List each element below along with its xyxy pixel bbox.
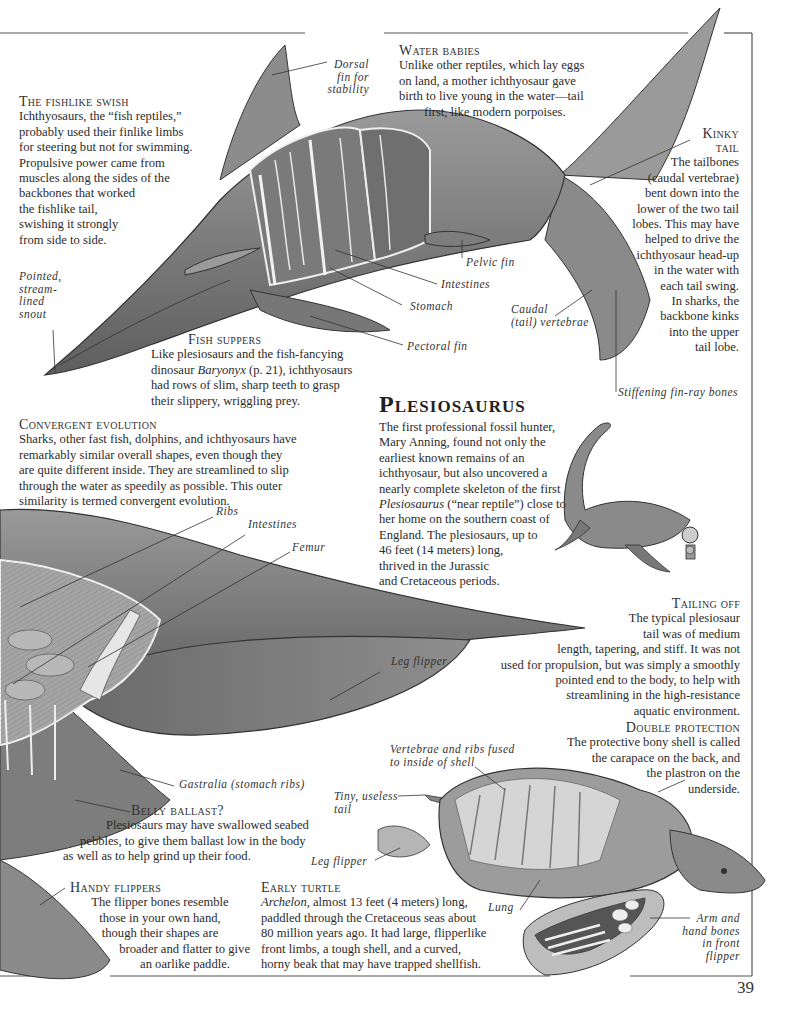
text-line: pointed end to the body, to help with xyxy=(490,673,740,688)
label-line: hand bones xyxy=(680,925,740,938)
label-pectoral-fin: Pectoral fin xyxy=(407,340,468,353)
label-line: stream- xyxy=(19,283,62,296)
label-caudal-vertebrae: Caudal (tail) vertebrae xyxy=(511,303,589,328)
text-line: remarkably similar overall shapes, even … xyxy=(19,448,329,463)
text-line: lobes. This may have xyxy=(600,217,739,232)
label-line: to inside of shell xyxy=(390,756,515,769)
text-line: bent down into the xyxy=(600,186,739,201)
text-line: (caudal vertebrae) xyxy=(600,171,739,186)
section-double-protection: Double protection The protective bony sh… xyxy=(540,720,740,797)
label-fin-ray-bones: Stiffening fin-ray bones xyxy=(618,386,738,399)
text-line: probably used their finlike limbs xyxy=(19,125,224,140)
label-leg-flipper-turtle: Leg flipper xyxy=(311,855,367,868)
page-number: 39 xyxy=(737,978,754,998)
label-leg-flipper: Leg flipper xyxy=(391,655,447,668)
label-tiny-tail: Tiny, useless tail xyxy=(334,790,398,815)
text-line: through the water as speedily as possibl… xyxy=(19,479,329,494)
text-line: The typical plesiosaur xyxy=(490,611,740,626)
text-line: tail was of medium xyxy=(490,627,740,642)
text-line: ichthyosaur, but also uncovered a xyxy=(379,466,579,481)
label-ribs: Ribs xyxy=(216,505,238,518)
text-line: and Cretaceous periods. xyxy=(379,574,579,589)
text-line: Ichthyosaurs, the “fish reptiles,” xyxy=(19,109,224,124)
label-line: Caudal xyxy=(511,303,589,316)
label-line: lined xyxy=(19,295,62,308)
section-heading: The fishlike swish xyxy=(19,94,224,109)
section-plesiosaurus-intro: The first professional fossil hunter, Ma… xyxy=(379,420,579,589)
text-line: The first professional fossil hunter, xyxy=(379,420,579,435)
label-femur: Femur xyxy=(292,541,325,554)
species-name: Plesiosaurus xyxy=(379,497,444,511)
text-line: the plastron on the xyxy=(540,766,740,781)
page-title: Plesiosaurus xyxy=(379,391,526,418)
label-line: flipper xyxy=(680,950,740,963)
label-line: Tiny, useless xyxy=(334,790,398,803)
text-line: In sharks, the xyxy=(600,294,739,309)
section-tailing-off: Tailing off The typical plesiosaur tail … xyxy=(490,596,740,719)
text-line: her home on the southern coast of xyxy=(379,512,579,527)
text-line: muscles along the sides of the xyxy=(19,171,224,186)
text-line: on land, a mother ichthyosaur gave xyxy=(399,74,629,89)
text-line: Plesiosaurs may have swallowed seabed xyxy=(63,818,325,833)
text-line: Unlike other reptiles, which lay eggs xyxy=(399,58,629,73)
text-span: (“near reptile”) close to xyxy=(444,497,566,511)
label-lung: Lung xyxy=(488,901,514,914)
label-line: (tail) vertebrae xyxy=(511,316,589,329)
section-heading: Fish suppers xyxy=(151,332,391,347)
species-name: Baryonyx xyxy=(198,363,246,377)
text-line: nearly complete skeleton of the first xyxy=(379,482,579,497)
label-intestines-plesio: Intestines xyxy=(248,518,297,531)
label-line: Arm and xyxy=(680,912,740,925)
text-span: , almost 13 feet (4 meters) long, xyxy=(307,895,468,909)
text-line: dinosaur Baryonyx (p. 21), ichthyosaurs xyxy=(151,363,391,378)
section-heading: Convergent evolution xyxy=(19,417,329,432)
text-line: the fishlike tail, xyxy=(19,202,224,217)
text-line: earliest known remains of an xyxy=(379,451,579,466)
section-fishlike-swish: The fishlike swish Ichthyosaurs, the “fi… xyxy=(19,94,224,248)
text-line: thrived in the Jurassic xyxy=(379,559,579,574)
text-line: length, tapering, and stiff. It was not xyxy=(490,642,740,657)
section-fish-suppers: Fish suppers Like plesiosaurs and the fi… xyxy=(151,332,391,409)
label-snout: Pointed, stream- lined snout xyxy=(19,270,62,320)
label-stomach: Stomach xyxy=(410,300,453,313)
section-heading: Water babies xyxy=(399,43,629,58)
label-pelvic-fin: Pelvic fin xyxy=(466,256,515,269)
text-line: horny beak that may have trapped shellfi… xyxy=(261,957,491,972)
text-line: lower of the two tail xyxy=(600,202,739,217)
text-line: as well as to help grind up their food. xyxy=(63,849,325,864)
section-belly-ballast: Belly ballast? Plesiosaurs may have swal… xyxy=(63,803,325,865)
section-early-turtle: Early turtle Archelon, almost 13 feet (4… xyxy=(261,880,491,972)
text-line: Archelon, almost 13 feet (4 meters) long… xyxy=(261,895,491,910)
text-line: Mary Anning, found not only the xyxy=(379,435,579,450)
text-line: paddled through the Cretaceous seas abou… xyxy=(261,911,491,926)
text-line: The flipper bones resemble xyxy=(70,895,250,910)
label-line: Pointed, xyxy=(19,270,62,283)
text-line: used for propulsion, but was simply a sm… xyxy=(490,658,740,673)
text-line: pebbles, to give them ballast low in the… xyxy=(63,834,325,849)
text-line: had rows of slim, sharp teeth to grasp xyxy=(151,378,391,393)
label-intestines: Intestines xyxy=(441,278,490,291)
section-heading: Handy flippers xyxy=(70,880,250,895)
text-line: Propulsive power came from xyxy=(19,156,224,171)
text-line: from side to side. xyxy=(19,233,224,248)
text-line: each tail swing. xyxy=(600,279,739,294)
label-line: Dorsal xyxy=(325,58,369,71)
label-vertebrae-ribs-fused: Vertebrae and ribs fused to inside of sh… xyxy=(390,743,515,768)
text-line: backbones that worked xyxy=(19,186,224,201)
text-line: the carapace on the back, and xyxy=(540,751,740,766)
text-line: backbone kinks xyxy=(600,309,739,324)
label-line: snout xyxy=(19,308,62,321)
text-span: (p. 21), ichthyosaurs xyxy=(246,363,353,377)
label-gastralia: Gastralia (stomach ribs) xyxy=(179,778,305,791)
section-heading: Early turtle xyxy=(261,880,491,895)
label-line: fin for xyxy=(325,71,369,84)
text-line: birth to live young in the water—tail xyxy=(399,89,629,104)
species-name: Archelon xyxy=(261,895,307,909)
label-line: stability xyxy=(325,83,369,96)
text-line: 46 feet (14 meters) long, xyxy=(379,543,579,558)
section-water-babies: Water babies Unlike other reptiles, whic… xyxy=(399,43,629,120)
text-line: Like plesiosaurs and the fish-fancying xyxy=(151,347,391,362)
text-line: tail lobe. xyxy=(600,340,739,355)
text-line: streamlining in the high-resistance xyxy=(490,688,740,703)
text-line: those in your own hand, xyxy=(70,911,250,926)
